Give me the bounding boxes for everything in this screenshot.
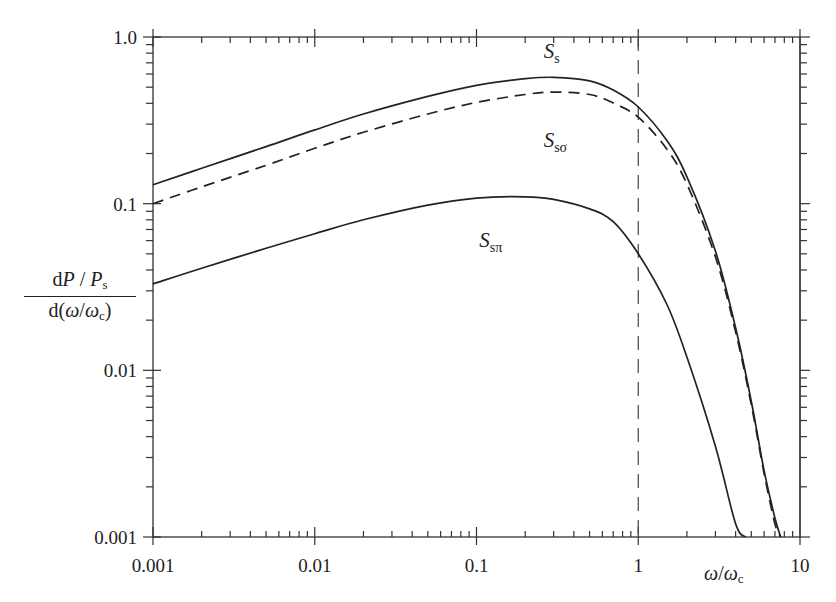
curve-ss-sigma <box>153 92 781 537</box>
x-axis-label: ω/ωc <box>704 562 744 587</box>
curve-labels: SsSsσSsπ <box>479 39 567 255</box>
y-tick-label: 1.0 <box>113 27 137 48</box>
curve-ss-pi <box>153 197 746 537</box>
y-tick-label: 0.001 <box>94 527 137 548</box>
plot-frame <box>153 37 800 537</box>
y-tick-label: 0.1 <box>113 194 137 215</box>
plot-curves <box>153 77 781 537</box>
x-tick-label: 0.001 <box>132 555 175 576</box>
curve-label-ss: Ss <box>544 39 560 66</box>
plot-axes: 0.0010.010.11100.0010.010.11.0 <box>94 27 810 576</box>
curve-ss <box>153 77 781 537</box>
curve-label-ss-pi: Ssπ <box>479 228 502 255</box>
x-tick-label: 10 <box>791 555 810 576</box>
y-axis-label: dP / Ps d(ω/ωc) <box>20 268 140 324</box>
curve-label-ss-sigma: Ssσ <box>544 128 568 155</box>
x-tick-label: 1 <box>634 555 644 576</box>
x-tick-label: 0.01 <box>298 555 331 576</box>
y-axis-label-denominator: d(ω/ωc) <box>20 297 140 324</box>
y-axis-label-numerator: dP / Ps <box>24 268 136 297</box>
y-tick-label: 0.01 <box>104 360 137 381</box>
x-tick-label: 0.1 <box>465 555 489 576</box>
